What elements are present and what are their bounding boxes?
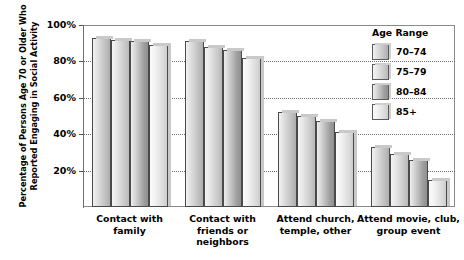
legend-label: 70–74 [396, 46, 427, 57]
x-label-line: neighbors [168, 236, 277, 248]
gridline [83, 134, 455, 135]
legend-label: 75–79 [396, 66, 427, 77]
y-tick: 20% [34, 166, 76, 176]
legend: Age Range 70–7475–7980–8485+ [370, 27, 454, 123]
gridline [83, 171, 455, 172]
legend-label: 85+ [396, 106, 417, 117]
x-label-line: group event [354, 225, 463, 237]
y-tick: 60% [34, 93, 76, 103]
legend-item: 80–84 [370, 83, 454, 100]
legend-item: 75–79 [370, 63, 454, 80]
y-axis-title: Percentage of Persons Age 70 or Older Wh… [0, 0, 58, 212]
y-tick-label: 40% [34, 129, 76, 139]
legend-title: Age Range [372, 27, 454, 38]
y-axis-title-line-1: Percentage of Persons Age 70 or Older Wh… [18, 4, 29, 207]
bar-chart: Percentage of Persons Age 70 or Older Wh… [0, 0, 464, 260]
y-tick-label: 60% [34, 93, 76, 103]
legend-label: 80–84 [396, 86, 427, 97]
legend-swatch-side-shadow [389, 103, 391, 119]
y-axis-title-line-2: Reported Engaging in Social Activity [29, 4, 40, 207]
y-tick: 40% [34, 129, 76, 139]
legend-swatch-top-shadow [375, 83, 390, 85]
y-tick-label: 80% [34, 56, 76, 66]
legend-swatch-side-shadow [389, 43, 391, 59]
legend-swatch-top-shadow [375, 43, 390, 45]
legend-swatch [372, 64, 389, 80]
legend-swatch [372, 44, 389, 60]
legend-item: 70–74 [370, 43, 454, 60]
legend-swatch-side-shadow [389, 63, 391, 79]
legend-item: 85+ [370, 103, 454, 120]
x-axis-category-label: Attend movie, club,group event [354, 213, 463, 236]
x-label-line: Attend movie, club, [354, 213, 463, 225]
legend-swatch-top-shadow [375, 63, 390, 65]
y-tick: 100% [34, 20, 76, 30]
y-tick-label: 100% [34, 20, 76, 30]
legend-swatch [372, 104, 389, 120]
y-tick-label: 20% [34, 166, 76, 176]
legend-swatch-top-shadow [375, 103, 390, 105]
y-axis-line [83, 25, 84, 208]
legend-swatch [372, 84, 389, 100]
legend-items: 70–7475–7980–8485+ [370, 43, 454, 120]
y-tick: 80% [34, 56, 76, 66]
legend-swatch-side-shadow [389, 83, 391, 99]
